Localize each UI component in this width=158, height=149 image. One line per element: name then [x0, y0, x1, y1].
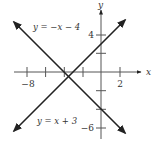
y-tick-label-4: 4 [88, 30, 94, 40]
x-axis: −8 2 x [14, 67, 151, 89]
equation-label-1: y = −x − 4 [32, 22, 80, 32]
y-axis-label: y [97, 0, 104, 10]
y-axis: 4 −6 y [81, 0, 106, 139]
coordinate-plane: −8 2 x 4 −6 y y = −x − 4 y = x + 3 [0, 0, 158, 149]
line-y-equals-x-plus-3 [14, 20, 125, 131]
equation-label-2: y = x + 3 [36, 116, 77, 126]
y-tick-label-neg6: −6 [81, 123, 95, 133]
x-axis-label: x [146, 67, 151, 77]
x-tick-label-neg8: −8 [21, 79, 35, 89]
x-tick-label-2: 2 [117, 79, 123, 89]
